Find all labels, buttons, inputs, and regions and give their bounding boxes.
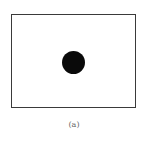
figure-caption: (a)	[0, 120, 148, 129]
filled-circle-icon	[62, 51, 85, 74]
